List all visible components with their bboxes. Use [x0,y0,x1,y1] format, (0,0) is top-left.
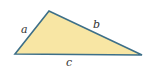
triangle-diagram: a b c [0,0,146,68]
side-label-c: c [66,56,72,68]
triangle-shape [15,11,142,55]
side-label-a: a [21,23,28,36]
side-label-b: b [93,18,100,31]
